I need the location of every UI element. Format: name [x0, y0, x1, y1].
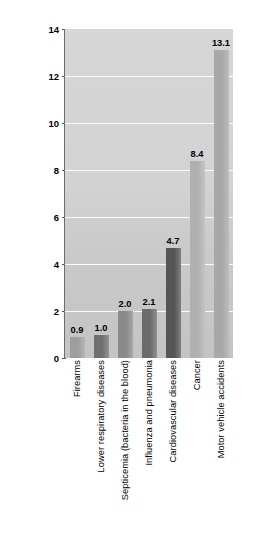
- y-axis: 02468101214: [0, 0, 66, 552]
- x-axis-label-slot: Cancer: [185, 360, 209, 546]
- bar-value-label: 13.1: [205, 38, 233, 48]
- y-axis-tick-label: 12: [48, 71, 62, 82]
- bar-value-label: 1.0: [85, 323, 117, 333]
- bar: [166, 248, 181, 358]
- x-axis-label: Septicemia (bacteria in the blood): [120, 360, 130, 500]
- gridline: [65, 264, 233, 265]
- y-axis-tick-label: 8: [54, 165, 62, 176]
- x-axis-label: Motor vehicle accidents: [216, 360, 226, 458]
- x-axis-label-slot: Motor vehicle accidents: [209, 360, 233, 546]
- plot-area: 0.91.02.02.14.78.413.1: [65, 29, 233, 358]
- y-axis-tick-label: 0: [54, 353, 62, 364]
- y-axis-tick-label: 10: [48, 118, 62, 129]
- gridline: [65, 170, 233, 171]
- gridline: [65, 217, 233, 218]
- y-axis-tick-label: 2: [54, 306, 62, 317]
- y-axis-tick-label: 4: [54, 259, 62, 270]
- gridline: [65, 123, 233, 124]
- bar-value-label: 8.4: [181, 149, 213, 159]
- x-axis-labels: FirearmsLower respiratory diseasesSeptic…: [65, 360, 233, 550]
- x-axis-label: Cardiovascular diseases: [168, 360, 178, 462]
- gridline: [65, 76, 233, 77]
- y-axis-tick-label: 6: [54, 212, 62, 223]
- bar: [94, 335, 109, 359]
- bar-value-label: 4.7: [157, 236, 189, 246]
- x-axis-label-slot: Influenza and pneumonia: [137, 360, 161, 546]
- bar: [118, 311, 133, 358]
- x-axis-label: Firearms: [72, 360, 82, 397]
- bar-chart: Percentage of deaths in U.S. children 1 …: [0, 0, 253, 552]
- bar: [142, 309, 157, 358]
- x-axis-label: Influenza and pneumonia: [144, 360, 154, 466]
- bar: [190, 161, 205, 358]
- x-axis-label-slot: Septicemia (bacteria in the blood): [113, 360, 137, 546]
- bar-value-label: 2.1: [133, 297, 165, 307]
- y-axis-tick-label: 14: [48, 24, 62, 35]
- bar: [214, 50, 229, 358]
- bar: [70, 337, 85, 358]
- x-axis-label: Lower respiratory diseases: [96, 360, 106, 472]
- x-axis-label-slot: Cardiovascular diseases: [161, 360, 185, 546]
- x-axis-label-slot: Firearms: [65, 360, 89, 546]
- x-axis-label: Cancer: [192, 360, 202, 390]
- x-axis-label-slot: Lower respiratory diseases: [89, 360, 113, 546]
